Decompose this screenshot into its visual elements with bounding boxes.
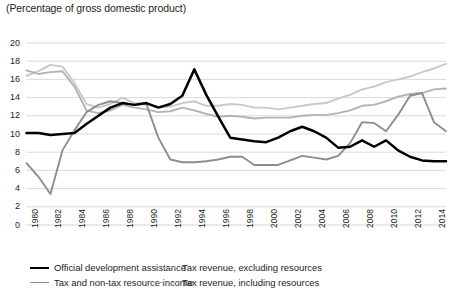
gridlines-group: [27, 43, 447, 225]
y-axis-tick-label: 6: [2, 166, 20, 175]
y-axis-tick-label: 20: [2, 39, 20, 48]
legend-item-label: Tax revenue, excluding resources: [182, 262, 322, 273]
x-axis-tick-label: 1988: [126, 209, 135, 228]
x-axis-tick-label: 1992: [174, 209, 183, 228]
legend-item[interactable]: Tax revenue, including resources: [158, 277, 319, 288]
y-axis-tick-label: 10: [2, 130, 20, 139]
x-axis-tick-label: 2004: [318, 209, 327, 228]
legend-item-label: Tax revenue, including resources: [182, 277, 319, 288]
x-axis-tick-label: 1998: [246, 209, 255, 228]
x-axis-tick-label: 1982: [54, 209, 63, 228]
chart-plot-area: [0, 0, 451, 292]
y-axis-tick-label: 2: [2, 202, 20, 211]
x-axis-tick-label: 1980: [31, 209, 40, 228]
x-axis-tick-label: 2006: [342, 209, 351, 228]
x-axis-tick-label: 2002: [294, 209, 303, 228]
legend-swatch-icon: [30, 282, 49, 283]
x-axis-tick-label: 1994: [198, 209, 207, 228]
x-axis-tick-label: 1996: [222, 209, 231, 228]
y-axis-tick-label: 4: [2, 184, 20, 193]
chart-root: (Percentage of gross domestic product) 0…: [0, 0, 451, 292]
y-axis-tick-label: 12: [2, 111, 20, 120]
x-axis-tick-label: 2010: [390, 209, 399, 228]
x-axis-tick-label: 2014: [438, 209, 447, 228]
x-axis-tick-label: 2008: [366, 209, 375, 228]
x-axis-tick-label: 1984: [78, 209, 87, 228]
legend-swatch-icon: [158, 267, 177, 268]
x-axis-tick-label: 1986: [102, 209, 111, 228]
y-axis-tick-label: 8: [2, 148, 20, 157]
legend-swatch-icon: [30, 267, 49, 269]
x-axis-tick-label: 1990: [150, 209, 159, 228]
y-axis-tick-label: 18: [2, 57, 20, 66]
legend-item[interactable]: Tax revenue, excluding resources: [158, 262, 322, 273]
y-axis-tick-label: 16: [2, 75, 20, 84]
series-group: [27, 64, 447, 194]
x-axis-tick-label: 2000: [270, 209, 279, 228]
x-axis-tick-label: 2012: [414, 209, 423, 228]
series-line-tax-nontax-resource: [27, 93, 447, 194]
chart-legend: Official development assistanceTax and n…: [0, 259, 451, 292]
legend-swatch-icon: [158, 282, 177, 283]
y-axis-tick-label: 14: [2, 93, 20, 102]
y-axis-tick-label: 0: [2, 221, 20, 230]
